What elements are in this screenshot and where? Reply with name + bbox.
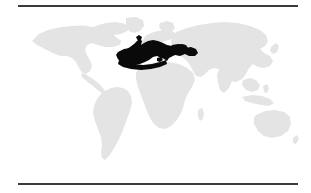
land-north-america [32, 22, 129, 74]
land-philippines [263, 84, 269, 93]
land-central-america [81, 73, 105, 94]
figure-top-rule [18, 5, 298, 7]
land-greenland [126, 17, 144, 33]
world-map-svg [17, 12, 300, 176]
landmasses [32, 17, 299, 160]
land-japan [270, 43, 279, 54]
figure-container [0, 0, 311, 193]
world-map [17, 12, 300, 176]
land-australia [254, 110, 291, 138]
land-southeast-asia [242, 78, 260, 92]
land-south-america [93, 87, 132, 160]
land-new-zealand [293, 135, 299, 144]
figure-bottom-rule [18, 183, 298, 185]
range-polygon-alps-speckle [136, 35, 142, 41]
land-africa [136, 62, 195, 129]
land-indonesia [242, 95, 274, 106]
land-madagascar [198, 108, 204, 121]
